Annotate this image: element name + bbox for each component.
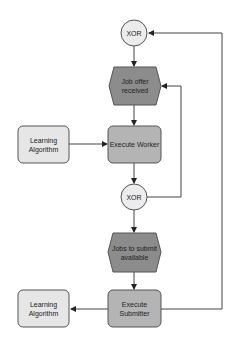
job-offer-label-line2: received [122, 86, 148, 95]
learning-algorithm-2-line1: Learning [30, 300, 57, 309]
xor-top-label: XOR [121, 20, 147, 46]
jobs-to-submit-line1: Jobs to submit [112, 244, 157, 253]
execute-submitter-line2: Submitter [120, 309, 150, 318]
learning-algorithm-1-line2: Algorithm [29, 145, 59, 154]
execute-submitter-label: Execute Submitter [108, 290, 161, 327]
learning-algorithm-2-line2: Algorithm [29, 309, 59, 318]
job-offer-label-line1: Job offer [121, 77, 148, 86]
jobs-to-submit-label: Jobs to submit available [108, 233, 161, 272]
execute-worker-label: Execute Worker [108, 126, 161, 163]
xor-mid-label: XOR [121, 184, 147, 210]
learning-algorithm-1-label: Learning Algorithm [18, 126, 69, 163]
execute-submitter-line1: Execute [122, 300, 147, 309]
learning-algorithm-1-line1: Learning [30, 136, 57, 145]
job-offer-label: Job offer received [110, 67, 160, 105]
learning-algorithm-2-label: Learning Algorithm [18, 290, 69, 327]
jobs-to-submit-line2: available [121, 253, 149, 262]
